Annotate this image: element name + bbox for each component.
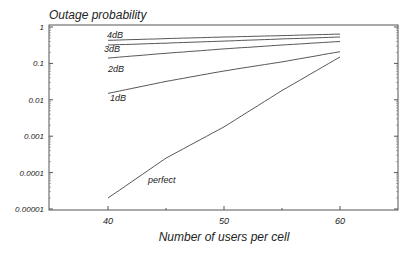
plot-frame (49, 25, 398, 210)
series-line-perfect (108, 57, 340, 198)
series-line-4dB (108, 34, 340, 40)
y-axis: 10.10.010.0010.00010.00001 (15, 23, 398, 214)
series-label-3dB: 3dB (104, 44, 120, 54)
series-label-1dB: 1dB (110, 93, 126, 103)
y-tick-label: 0.00001 (15, 205, 44, 214)
y-tick-label: 0.001 (24, 132, 44, 141)
y-tick-label: 1 (40, 23, 44, 32)
x-tick-label: 50 (219, 216, 229, 226)
y-tick-label: 0.1 (33, 59, 44, 68)
series-lines (108, 34, 340, 198)
x-tick-label: 60 (335, 216, 345, 226)
x-tick-label: 40 (103, 216, 113, 226)
y-tick-label: 0.0001 (20, 169, 44, 178)
y-tick-label: 0.01 (28, 96, 44, 105)
outage-probability-chart: Outage probability 10.10.010.0010.00010.… (0, 0, 416, 255)
series-line-1dB (108, 52, 340, 94)
x-axis: 405060 (103, 206, 345, 226)
series-label-4dB: 4dB (107, 30, 123, 40)
x-axis-label: Number of users per cell (159, 230, 290, 244)
chart-title: Outage probability (49, 8, 147, 22)
series-label-perfect: perfect (147, 175, 176, 185)
series-label-2dB: 2dB (107, 64, 124, 74)
